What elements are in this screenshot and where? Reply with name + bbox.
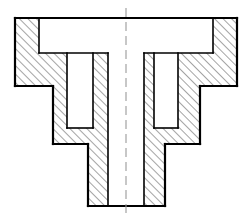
technical-drawing-canvas (0, 0, 246, 221)
section-view-svg (0, 0, 246, 221)
